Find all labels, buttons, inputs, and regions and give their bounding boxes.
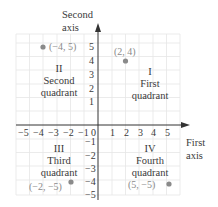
quadrant-name: Fourth	[118, 155, 182, 167]
point-label: (−4, 5)	[49, 42, 76, 52]
point-neg4-5	[40, 44, 45, 49]
quadrant-numeral: III	[30, 143, 88, 155]
quadrant-name: Second	[30, 75, 88, 87]
x-tick: 1	[110, 128, 115, 138]
x-tick: 3	[138, 128, 143, 138]
y-tick: 4	[89, 56, 94, 66]
quadrant-third-label: III Third quadrant	[30, 143, 88, 179]
x-axis-label-line1: First	[186, 137, 205, 148]
quadrant-name: First	[118, 78, 182, 90]
point-neg2-neg5	[68, 179, 73, 184]
point-label: (5, −5)	[128, 180, 155, 190]
point-label: (2, 4)	[114, 47, 136, 57]
quadrant-numeral: I	[118, 66, 182, 78]
x-tick: −5	[18, 128, 29, 138]
quadrant-numeral: II	[30, 63, 88, 75]
y-tick: 5	[89, 42, 94, 52]
y-axis-label-line2: axis	[62, 22, 79, 33]
point-label: (−2, −5)	[29, 182, 62, 192]
quadrant-word: quadrant	[118, 90, 182, 102]
y-tick: 1	[89, 97, 94, 107]
y-axis-label-line1: Second	[62, 9, 93, 20]
y-tick: 3	[89, 70, 94, 80]
quadrant-fourth-label: IV Fourth quadrant	[118, 143, 182, 179]
quadrant-numeral: IV	[118, 143, 182, 155]
y-tick: 2	[89, 84, 94, 94]
quadrant-first-label: I First quadrant	[118, 66, 182, 102]
y-tick: −5	[85, 190, 96, 200]
point-2-4	[123, 58, 128, 63]
quadrant-word: quadrant	[118, 167, 182, 179]
y-axis-arrow-icon	[95, 23, 101, 32]
quadrant-word: quadrant	[30, 167, 88, 179]
x-axis-arrow-icon	[181, 122, 190, 128]
x-tick: −3	[48, 128, 59, 138]
x-axis-label-line2: axis	[186, 150, 203, 161]
point-5-neg5	[166, 181, 171, 186]
x-tick: 5	[165, 128, 170, 138]
quadrant-second-label: II Second quadrant	[30, 63, 88, 99]
x-tick: 2	[124, 128, 129, 138]
quadrant-name: Third	[30, 155, 88, 167]
quadrant-word: quadrant	[30, 87, 88, 99]
x-tick: 4	[151, 128, 156, 138]
x-tick: −2	[63, 128, 74, 138]
x-tick: −4	[33, 128, 44, 138]
